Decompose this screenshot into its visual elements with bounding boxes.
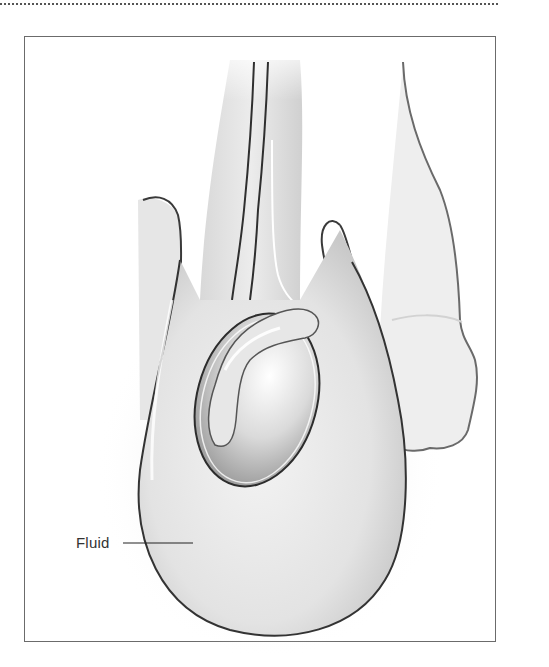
spermatic-cord <box>200 40 320 315</box>
fluid-label: Fluid <box>76 534 110 551</box>
hydrocele-illustration <box>0 0 549 667</box>
